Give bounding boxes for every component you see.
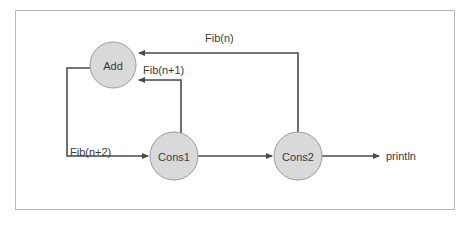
node-cons2-label: Cons2	[282, 151, 314, 163]
node-cons2[interactable]: Cons2	[274, 132, 322, 180]
node-cons1-label: Cons1	[158, 151, 190, 163]
node-add[interactable]: Add	[90, 42, 136, 88]
diagram-canvas: Add Cons1 Cons2 Fib(n) Fib(n+1) Fib(n+2)…	[0, 0, 471, 230]
edge-fib-n1-path	[139, 80, 181, 133]
edge-label-fib-n1: Fib(n+1)	[143, 64, 184, 76]
edge-label-fib-n: Fib(n)	[205, 32, 234, 44]
edge-label-fib-n2: Fib(n+2)	[70, 146, 111, 158]
diagram-svg: Add Cons1 Cons2 Fib(n) Fib(n+1) Fib(n+2)…	[0, 0, 471, 230]
node-add-label: Add	[103, 60, 123, 72]
node-cons1[interactable]: Cons1	[150, 132, 198, 180]
sink-label-println: println	[386, 150, 416, 162]
